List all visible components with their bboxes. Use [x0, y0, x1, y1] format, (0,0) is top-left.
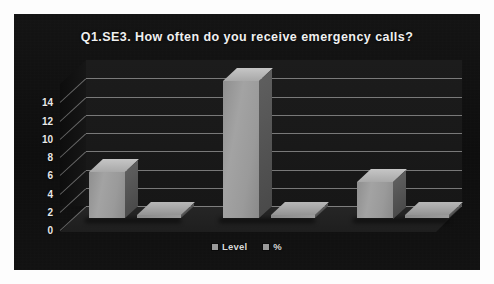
bar-front-face: [405, 215, 449, 218]
y-axis-tick-label: 8: [47, 152, 53, 163]
y-axis-tick-label: 10: [42, 133, 53, 144]
plot-area: 02468101214 Very frequentFrequentSeldom: [60, 60, 462, 220]
legend-swatch-percent-icon: [263, 244, 269, 250]
chart-panel: Q1.SE3. How often do you receive emergen…: [14, 14, 480, 270]
y-axis-tick-label: 14: [42, 97, 53, 108]
bar-level[interactable]: [357, 182, 393, 219]
legend-item-percent[interactable]: %: [263, 241, 282, 252]
y-axis-tick-label: 2: [47, 206, 53, 217]
legend-item-level[interactable]: Level: [212, 241, 247, 252]
bar-group: [60, 50, 462, 220]
y-axis-tick-label: 6: [47, 170, 53, 181]
bar-ground-shadow: [353, 218, 449, 223]
chart-legend: Level %: [14, 241, 480, 252]
screenshot-root: Q1.SE3. How often do you receive emergen…: [0, 0, 494, 284]
bar-front-face: [357, 182, 393, 219]
legend-label-level: Level: [222, 241, 247, 252]
legend-swatch-level-icon: [212, 244, 218, 250]
bar-percent[interactable]: [405, 215, 449, 218]
y-axis-tick-label: 4: [47, 188, 53, 199]
y-axis-tick-label: 0: [47, 225, 53, 236]
chart-title: Q1.SE3. How often do you receive emergen…: [14, 30, 480, 44]
y-axis-tick-label: 12: [42, 115, 53, 126]
legend-label-percent: %: [273, 241, 282, 252]
